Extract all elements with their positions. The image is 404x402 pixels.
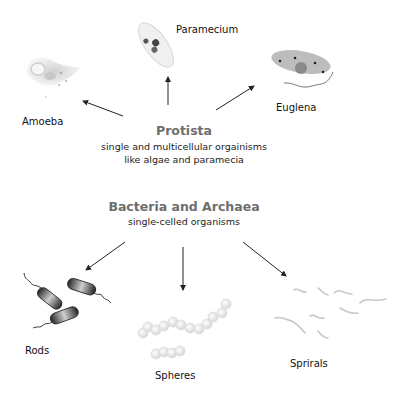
rods-label: Rods [25, 345, 49, 356]
protista-description-line1: single and multicellular orgainisms [94, 140, 274, 153]
bacteria-description: single-celled organisms [94, 215, 274, 228]
spirals-illustration [275, 288, 386, 338]
bacteria-group: Bacteria and Archaea single-celled organ… [94, 199, 274, 228]
arrow-to-spirals [243, 242, 286, 276]
euglena-label: Euglena [276, 102, 316, 113]
protista-group: Protista single and multicellular orgain… [94, 123, 274, 166]
spirals-label: Sprirals [290, 358, 328, 369]
bacteria-title: Bacteria and Archaea [94, 199, 274, 214]
euglena-illustration [270, 46, 333, 87]
amoeba-illustration [27, 57, 80, 97]
arrow-to-rods [86, 242, 125, 270]
protista-description-line2: like algae and paramecia [94, 153, 274, 166]
spheres-label: Spheres [155, 370, 195, 381]
paramecium-label: Paramecium [176, 24, 238, 35]
amoeba-label: Amoeba [22, 116, 63, 127]
protista-title: Protista [94, 123, 274, 138]
rods-illustration [24, 273, 111, 328]
arrow-to-euglena [216, 86, 254, 110]
arrow-to-amoeba [83, 101, 123, 116]
paramecium-illustration [132, 17, 180, 72]
spheres-illustration [138, 299, 231, 359]
